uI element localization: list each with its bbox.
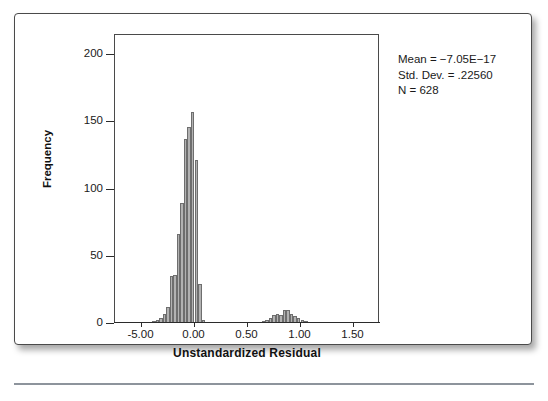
statistics-annotation: Mean = −7.05E−17 Std. Dev. = .22560 N = … <box>398 52 496 99</box>
stat-mean: Mean = −7.05E−17 <box>398 52 496 68</box>
y-axis-tick-label: 50 <box>57 249 103 261</box>
x-axis-tick <box>247 322 248 327</box>
x-axis-tick-label: -5.00 <box>111 328 171 340</box>
y-axis-tick <box>106 54 114 55</box>
y-axis-title: Frequency <box>41 99 53 219</box>
footer-rule <box>14 383 534 385</box>
stat-std-dev: Std. Dev. = .22560 <box>398 68 496 84</box>
figure-card: 050100150200 -5.000.000.501.001.50 Frequ… <box>14 13 532 345</box>
x-axis-tick <box>300 322 301 327</box>
x-axis-tick <box>353 322 354 327</box>
y-axis-tick-label: 100 <box>57 182 103 194</box>
stat-n: N = 628 <box>398 83 496 99</box>
x-axis-tick-label: 0.50 <box>217 328 277 340</box>
y-axis-tick-label: 200 <box>57 47 103 59</box>
x-axis-tick-label: 0.00 <box>164 328 224 340</box>
y-axis-tick-label: 150 <box>57 114 103 126</box>
y-axis-tick-label: 0 <box>57 316 103 328</box>
x-axis-tick-label: 1.50 <box>323 328 383 340</box>
x-axis-title: Unstandardized Residual <box>114 346 380 360</box>
y-axis-tick <box>106 189 114 190</box>
x-axis-tick <box>141 322 142 327</box>
histogram-plot-area <box>115 35 378 323</box>
histogram-bar <box>198 284 202 323</box>
plot-frame <box>114 34 379 323</box>
y-axis-tick <box>106 256 114 257</box>
y-axis-tick <box>106 323 114 324</box>
x-axis-tick <box>194 322 195 327</box>
x-axis-tick-label: 1.00 <box>270 328 330 340</box>
y-axis-tick <box>106 121 114 122</box>
